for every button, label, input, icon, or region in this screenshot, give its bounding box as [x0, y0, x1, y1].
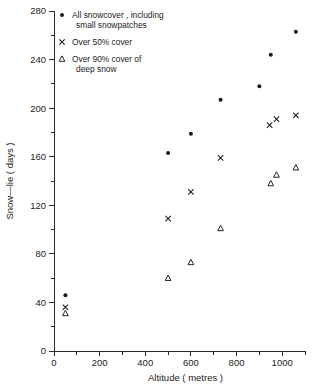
data-point-cross: [274, 116, 279, 121]
data-point-dot: [63, 293, 67, 297]
data-point-dot: [189, 132, 193, 136]
legend-label: Over 50% cover: [72, 37, 132, 47]
y-tick-label: 200: [30, 103, 46, 114]
axis-tick-labels: 0408012016020024028002004006008001000: [30, 5, 293, 368]
legend-label-line2: small snowpatches: [76, 20, 147, 30]
data-point-triangle: [293, 165, 299, 170]
scatter-plot: 0408012016020024028002004006008001000 Al…: [0, 0, 313, 390]
x-tick-label: 400: [137, 357, 153, 368]
x-tick-label: 1000: [272, 357, 293, 368]
legend-label: All snowcover , including: [72, 10, 164, 20]
chart-figure: 0408012016020024028002004006008001000 Al…: [0, 0, 313, 390]
legend-entry-0: All snowcover , includingsmall snowpatch…: [60, 10, 164, 30]
data-point-cross: [165, 216, 170, 221]
chart-legend: All snowcover , includingsmall snowpatch…: [59, 10, 164, 74]
data-point-triangle: [274, 172, 280, 177]
legend-entry-1: Over 50% cover: [59, 37, 132, 47]
data-point-cross: [63, 305, 68, 310]
y-tick-label: 240: [30, 54, 46, 65]
x-tick-label: 600: [183, 357, 199, 368]
data-point-triangle: [165, 275, 171, 280]
data-point-cross: [293, 113, 298, 118]
y-axis-title: Snow—lie ( days ): [4, 142, 15, 219]
x-tick-label: 200: [92, 357, 108, 368]
data-point-cross: [267, 122, 272, 127]
axis-titles: Altitude ( metres )Snow—lie ( days ): [4, 142, 223, 383]
y-tick-label: 0: [41, 345, 46, 356]
y-tick-label: 120: [30, 200, 46, 211]
y-tick-label: 80: [35, 248, 46, 259]
data-point-cross-legend: [59, 39, 64, 44]
data-point-dot: [257, 84, 261, 88]
data-point-dot: [294, 30, 298, 34]
legend-entry-2: Over 90% cover ofdeep snow: [59, 54, 142, 74]
legend-label-line2: deep snow: [76, 64, 117, 74]
data-point-dot-legend: [60, 13, 64, 17]
data-point-dot: [219, 98, 223, 102]
series-1: [63, 113, 299, 310]
x-tick-label: 0: [51, 357, 56, 368]
data-point-triangle: [188, 259, 194, 264]
data-point-dot: [166, 151, 170, 155]
y-tick-label: 40: [35, 297, 46, 308]
data-point-triangle: [268, 180, 274, 185]
data-point-triangle-legend: [59, 56, 65, 61]
x-axis-title: Altitude ( metres ): [148, 372, 223, 383]
x-tick-label: 800: [229, 357, 245, 368]
legend-label: Over 90% cover of: [72, 54, 142, 64]
data-point-triangle: [218, 225, 224, 230]
y-tick-label: 160: [30, 151, 46, 162]
data-point-triangle: [63, 310, 69, 315]
y-tick-label: 280: [30, 5, 46, 16]
data-point-cross: [188, 189, 193, 194]
data-point-cross: [218, 155, 223, 160]
data-point-dot: [269, 53, 273, 57]
series-2: [63, 165, 299, 316]
